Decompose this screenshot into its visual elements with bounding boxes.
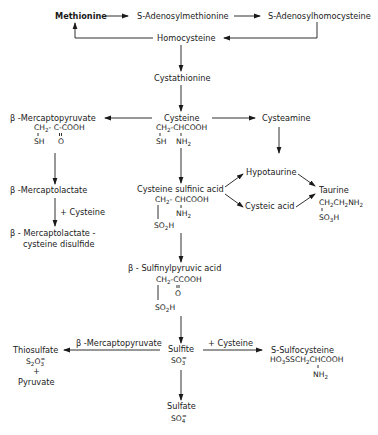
node-cysteamine: Cysteamine [262, 113, 311, 123]
node-hypotaurine: Hypotaurine [246, 167, 297, 177]
mercaptopyruvate-formula: CH2- C-COOH [34, 123, 85, 133]
cysteine-formula: CH2-CHCOOH [156, 123, 207, 133]
sulfinylpyruvic-so2h: SO2H [155, 303, 175, 313]
cysteine-nh2: NH2 [176, 137, 191, 147]
node-methionine: Methionine [55, 11, 107, 21]
arrow-sah-to-homocysteine [224, 22, 317, 38]
sulfocysteine-formula: HO3SSCH2CHCOOH [270, 355, 343, 365]
sulfinic-so2h: SO2H [154, 221, 174, 231]
sulfur-metabolism-diagram: Methionine S-Adenosylmethionine S-Adenos… [0, 0, 378, 435]
node-sulfinylpyruvic-acid: β - Sulfinylpyruvic acid [128, 263, 221, 273]
node-sulfate: Sulfate [167, 401, 196, 411]
sulfinic-nh2: NH2 [176, 209, 191, 219]
sulfite-formula: SO3= [171, 355, 187, 366]
sulfinic-formula: CH2- CHCOOH [155, 195, 209, 205]
node-s-adenosylmethionine: S-Adenosylmethionine [137, 11, 229, 21]
sulfinylpyruvic-o: O [175, 289, 181, 298]
arrow-hypotaurine-to-taurine [298, 174, 315, 186]
node-disulfide-l1: β - Mercaptolactate - [10, 228, 95, 238]
mercaptopyruvate-o: O [58, 137, 64, 146]
node-homocysteine: Homocysteine [157, 33, 216, 43]
node-cysteine: Cysteine [164, 113, 200, 123]
node-sulfite: Sulfite [168, 344, 194, 354]
edge-label-plus-cysteine-1: + Cysteine [60, 207, 105, 217]
node-mercaptolactate: β -Mercaptolactate [10, 185, 87, 195]
node-disulfide-l2: cysteine disulfide [23, 239, 95, 249]
node-cystathionine: Cystathionine [154, 73, 210, 83]
sulfinylpyruvic-formula: CH2-CCOOH [156, 275, 202, 285]
taurine-so3h: SO3H [319, 213, 339, 223]
node-thiosulfate: Thiosulfate [12, 345, 58, 355]
node-taurine: Taurine [318, 185, 349, 195]
arrow-sulfinic-to-hypotaurine [225, 174, 243, 187]
arrow-cysteic-acid-to-taurine [296, 194, 315, 207]
node-cysteine-sulfinic-acid: Cysteine sulfinic acid [137, 184, 224, 194]
taurine-formula: CH2CH2NH2 [319, 198, 363, 208]
arrow-sulfinic-to-cysteic-acid [225, 194, 243, 207]
node-mercaptopyruvate: β -Mercaptopyruvate [10, 113, 96, 123]
edge-label-plus-cysteine-2: + Cysteine [208, 338, 253, 348]
sulfate-formula: SO4= [171, 413, 187, 424]
node-pyruvate: Pyruvate [18, 377, 54, 387]
node-cysteic-acid: Cysteic acid [245, 201, 294, 211]
cysteine-sh: SH [156, 137, 167, 146]
node-s-sulfocysteine: S-Sulfocysteine [271, 345, 334, 355]
edge-label-mercaptopyruvate: β -Mercaptopyruvate [76, 338, 162, 348]
node-s-adenosylhomocysteine: S-Adenosylhomocysteine [268, 11, 371, 21]
arrow-homocysteine-to-methionine [75, 23, 153, 38]
mercaptopyruvate-sh: SH [34, 137, 45, 146]
thiosulfate-plus: + [33, 366, 40, 376]
sulfocysteine-nh2: NH2 [313, 370, 328, 380]
